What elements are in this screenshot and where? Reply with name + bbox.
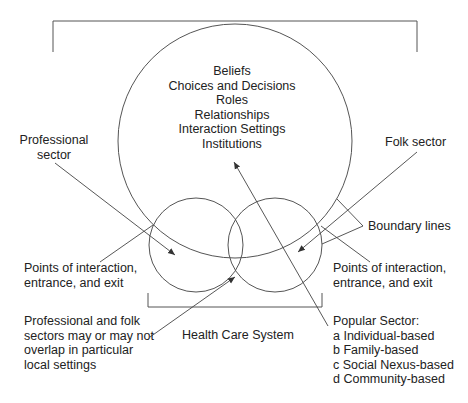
folk-sector-label: Folk sector bbox=[385, 135, 446, 150]
folk-sector-circle bbox=[228, 198, 322, 292]
overlap-note-label: Professional and folk sectors may or may… bbox=[24, 314, 154, 372]
central-item: Choices and Decisions bbox=[132, 79, 332, 94]
professional-sector-label: Professional sector bbox=[12, 133, 96, 162]
points-of-interaction-left-label: Points of interaction, entrance, and exi… bbox=[24, 261, 137, 290]
label-line: local settings bbox=[24, 358, 154, 373]
boundary-lines-pointer bbox=[322, 199, 363, 244]
central-item: Relationships bbox=[132, 108, 332, 123]
folk-sector-pointer bbox=[298, 152, 417, 252]
popular-sector-item: a Individual-based bbox=[333, 329, 454, 344]
boundary-lines-label: Boundary lines bbox=[368, 219, 451, 234]
points-of-interaction-right-label: Points of interaction, entrance, and exi… bbox=[333, 261, 446, 290]
label-line: entrance, and exit bbox=[333, 276, 446, 291]
points-right-pointer bbox=[321, 226, 370, 262]
professional-sector-pointer bbox=[55, 163, 175, 255]
popular-sector-item: c Social Nexus-based bbox=[333, 358, 454, 373]
label-line: Points of interaction, bbox=[24, 261, 137, 276]
popular-sector-label: Popular Sector: a Individual-based b Fam… bbox=[333, 314, 454, 387]
label-line: Professional and folk bbox=[24, 314, 154, 329]
popular-sector-item: b Family-based bbox=[333, 343, 454, 358]
label-line: Points of interaction, bbox=[333, 261, 446, 276]
central-item: Roles bbox=[132, 93, 332, 108]
points-left-pointer bbox=[100, 225, 153, 262]
label-line: Professional bbox=[12, 133, 96, 148]
label-line: sector bbox=[12, 148, 96, 163]
bottom-bracket bbox=[148, 293, 322, 307]
top-bracket bbox=[53, 21, 417, 52]
label-line: sectors may or may not bbox=[24, 329, 154, 344]
label-line: overlap in particular bbox=[24, 343, 154, 358]
popular-sector-item: d Community-based bbox=[333, 372, 454, 387]
central-circle-text: Beliefs Choices and Decisions Roles Rela… bbox=[132, 64, 332, 151]
label-line: entrance, and exit bbox=[24, 276, 137, 291]
professional-sector-circle bbox=[149, 198, 243, 292]
central-item: Beliefs bbox=[132, 64, 332, 79]
health-care-system-label: Health Care System bbox=[182, 328, 294, 343]
popular-sector-heading: Popular Sector: bbox=[333, 314, 454, 329]
central-item: Institutions bbox=[132, 137, 332, 152]
central-item: Interaction Settings bbox=[132, 122, 332, 137]
popular-sector-pointer bbox=[234, 162, 328, 326]
